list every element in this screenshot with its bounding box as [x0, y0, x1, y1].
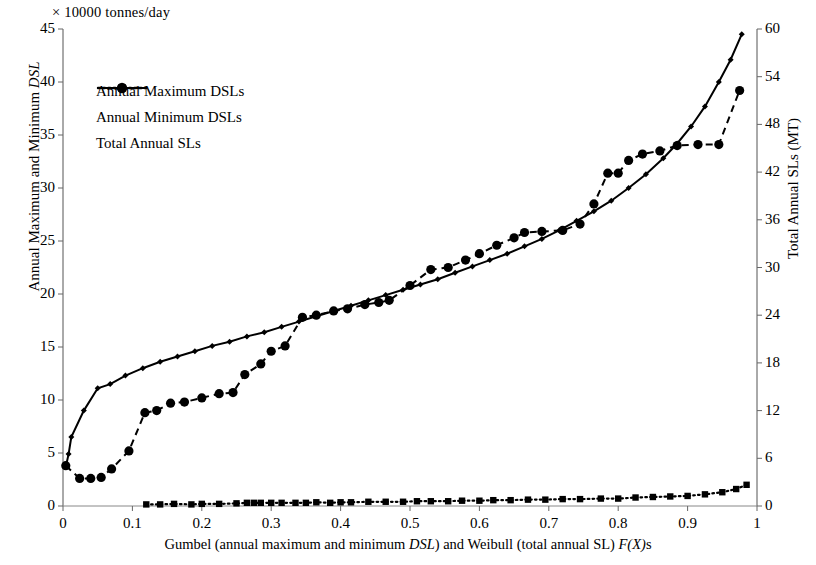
data-point-circle [117, 83, 127, 93]
legend-item: Annual Minimum DSLs [96, 104, 244, 130]
legend-label: Annual Minimum DSLs [96, 109, 242, 126]
x-tick-label: 0.5 [390, 516, 430, 531]
legend-label: Total Annual SLs [96, 135, 201, 152]
x-tick-label: 0.9 [668, 516, 708, 531]
x-tick-label: 1 [737, 516, 777, 531]
chart-figure: × 10000 tonnes/day 051015202530354045 06… [0, 0, 816, 565]
x-tick-label: 0.4 [321, 516, 361, 531]
y-axis-right-title: Total Annual SLs (MT) [785, 64, 802, 314]
y-axis-left-title: Annual Maximum and Minimum DSL [26, 47, 43, 307]
legend-item: Total Annual SLs [96, 130, 244, 156]
x-tick-label: 0 [43, 516, 83, 531]
x-tick-label: 0.1 [112, 516, 152, 531]
chart-legend: Annual Maximum DSLsAnnual Minimum DSLsTo… [96, 78, 244, 156]
x-tick-label: 0.8 [598, 516, 638, 531]
x-axis-title: Gumbel (annual maximum and minimum DSL) … [0, 536, 816, 553]
x-tick-label: 0.6 [459, 516, 499, 531]
x-tick-label: 0.3 [251, 516, 291, 531]
legend-key-circle [96, 78, 148, 98]
x-tick-label: 0.2 [182, 516, 222, 531]
x-tick-label: 0.7 [529, 516, 569, 531]
